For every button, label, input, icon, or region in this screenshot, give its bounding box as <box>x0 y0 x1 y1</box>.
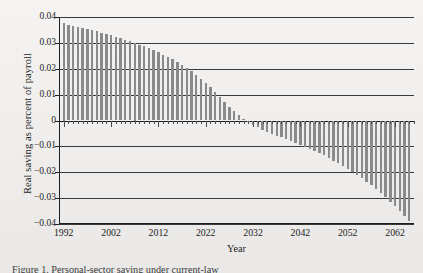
x-axis-minor-tick <box>106 121 107 124</box>
x-axis-minor-tick <box>362 121 363 124</box>
gridline <box>59 17 414 18</box>
figure-caption: Figure 1. Personal-sector saving under c… <box>12 264 412 273</box>
y-axis-tick <box>55 17 59 18</box>
bar <box>228 107 230 121</box>
x-axis-minor-tick <box>329 121 330 124</box>
x-axis-minor-tick <box>281 121 282 124</box>
bar <box>200 79 202 121</box>
x-axis-minor-tick <box>234 121 235 124</box>
bar <box>86 29 88 121</box>
bar <box>181 65 183 121</box>
x-axis-tick-label: 2022 <box>196 227 216 238</box>
x-axis-minor-tick <box>258 121 259 124</box>
y-axis-tick-label: 0.02 <box>20 64 56 74</box>
bar <box>323 121 325 156</box>
x-axis-tick-label: 2052 <box>338 227 358 238</box>
bar <box>134 43 136 121</box>
y-axis-tick <box>55 43 59 44</box>
x-axis-minor-tick <box>215 121 216 124</box>
x-axis-minor-tick <box>277 121 278 124</box>
bar <box>115 37 117 121</box>
x-axis-minor-tick <box>154 121 155 124</box>
y-axis-tick <box>55 224 59 225</box>
x-axis-minor-tick <box>210 121 211 124</box>
x-axis-minor-tick <box>121 121 122 124</box>
y-axis-tick-label: 0.04 <box>20 12 56 22</box>
x-axis-minor-tick <box>414 121 415 124</box>
bar <box>124 40 126 121</box>
x-axis-minor-tick <box>409 121 410 124</box>
y-axis-tick <box>55 69 59 70</box>
y-axis-tick <box>55 146 59 147</box>
x-axis-minor-tick <box>357 121 358 124</box>
x-axis-minor-tick <box>201 121 202 124</box>
bar <box>351 121 353 172</box>
y-axis-tick <box>55 198 59 199</box>
bar <box>313 121 315 151</box>
bar <box>209 87 211 120</box>
bar <box>408 121 410 221</box>
x-axis-minor-tick <box>225 121 226 124</box>
x-axis-minor-tick <box>135 121 136 124</box>
bar <box>186 68 188 121</box>
bar <box>375 121 377 190</box>
bar <box>119 38 121 120</box>
x-axis-minor-tick <box>130 121 131 124</box>
bar <box>152 50 154 120</box>
bar <box>190 71 192 120</box>
bar <box>105 34 107 121</box>
x-axis-minor-tick <box>310 121 311 124</box>
x-axis-minor-tick <box>92 121 93 124</box>
bar <box>205 83 207 121</box>
x-axis-minor-tick <box>196 121 197 124</box>
bar <box>77 27 79 121</box>
bar <box>389 121 391 202</box>
x-axis-minor-tick <box>97 121 98 124</box>
y-axis-tick <box>55 172 59 173</box>
bar <box>347 121 349 169</box>
x-axis-major-tick <box>111 121 112 127</box>
bar <box>337 121 339 164</box>
x-axis-minor-tick <box>263 121 264 124</box>
x-axis-minor-tick <box>229 121 230 124</box>
x-axis-minor-tick <box>116 121 117 124</box>
bar <box>157 52 159 120</box>
bar <box>318 121 320 154</box>
bar <box>356 121 358 176</box>
x-axis-minor-tick <box>386 121 387 124</box>
bar <box>290 121 292 141</box>
bar <box>72 26 74 121</box>
bar <box>403 121 405 216</box>
bar <box>399 121 401 211</box>
x-axis-title: Year <box>59 243 414 254</box>
bar <box>328 121 330 159</box>
bar <box>176 62 178 120</box>
x-axis-minor-tick <box>267 121 268 124</box>
bar <box>394 121 396 207</box>
bar <box>223 102 225 121</box>
x-axis-minor-tick <box>168 121 169 124</box>
x-axis-minor-tick <box>381 121 382 124</box>
x-axis-minor-tick <box>352 121 353 124</box>
x-axis-minor-tick <box>68 121 69 124</box>
x-axis-major-tick <box>348 121 349 127</box>
bar <box>138 45 140 121</box>
x-axis-minor-tick <box>144 121 145 124</box>
x-axis-minor-tick <box>371 121 372 124</box>
bar <box>332 121 334 161</box>
x-axis-minor-tick <box>272 121 273 124</box>
bar <box>195 75 197 121</box>
bar <box>129 41 131 120</box>
bar <box>162 55 164 121</box>
x-axis-minor-tick <box>163 121 164 124</box>
x-axis-minor-tick <box>315 121 316 124</box>
y-axis-tick-label: 0.03 <box>20 38 56 48</box>
bar <box>167 57 169 120</box>
x-axis-tick-label: 2032 <box>243 227 263 238</box>
x-axis-major-tick <box>64 121 65 127</box>
bar <box>219 97 221 121</box>
x-axis-major-tick <box>300 121 301 127</box>
x-axis-minor-tick <box>187 121 188 124</box>
x-axis-minor-tick <box>125 121 126 124</box>
x-axis-minor-tick <box>220 121 221 124</box>
